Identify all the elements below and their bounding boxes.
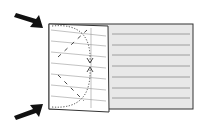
folding-diagram bbox=[0, 0, 204, 127]
top-left-arrow-icon bbox=[14, 13, 43, 28]
bottom-left-arrow-icon bbox=[14, 104, 43, 120]
folded-flap bbox=[49, 24, 109, 112]
